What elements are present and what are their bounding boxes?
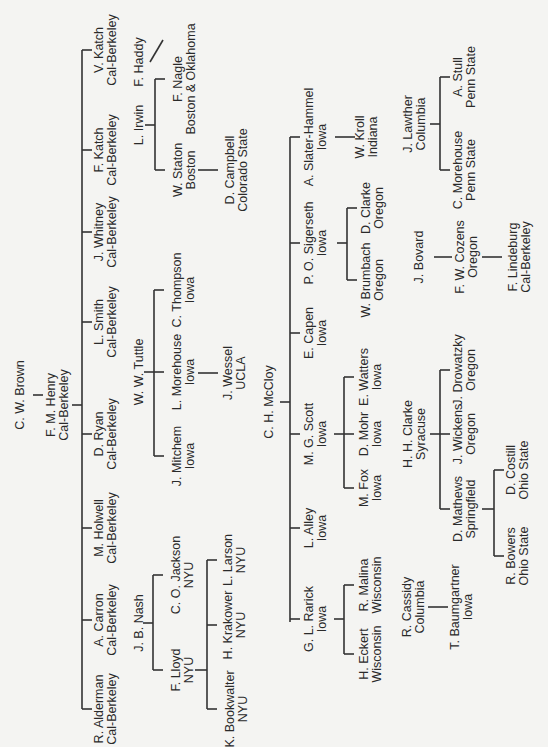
node-label: F. W. CozensOregon (454, 220, 480, 294)
school-name: Cal-Berkeley (106, 114, 119, 186)
person-name: J. B. Nash (133, 594, 146, 652)
node-label: D. ClarkeOregon (360, 182, 386, 234)
school-name: Cal-Berkeley (106, 673, 119, 745)
school-name: NYU (235, 534, 248, 586)
node-label: W. BrumbachOregon (360, 242, 386, 317)
school-name: Oregon (465, 334, 478, 406)
node-label: T. BaumgartnerIowa (449, 564, 475, 649)
school-name: Penn State (465, 46, 478, 108)
node-label: M. G. ScottIowa (303, 403, 329, 466)
school-name: Iowa (462, 564, 475, 649)
school-name: Oregon (373, 182, 386, 234)
node-label: J. MitchemIowa (171, 426, 197, 486)
school-name: Syracuse (415, 400, 428, 468)
node-label: C. MorehousePenn State (452, 131, 478, 210)
school-name: Iowa (316, 586, 329, 652)
school-name: Ohio State (518, 440, 531, 499)
person-name: W. W. Tuttle (133, 339, 146, 406)
school-name: UCLA (235, 346, 248, 400)
edge-haddy-nagle (150, 40, 163, 62)
node-label: F. KatchCal-Berkeley (93, 114, 119, 186)
node-label: L. Irwin (133, 105, 146, 145)
school-name: Iowa (316, 88, 329, 187)
school-name: Cal-Berkeley (58, 369, 71, 441)
school-name: Cal-Berkeley (106, 398, 119, 470)
school-name: Penn State (465, 131, 478, 210)
node-label: C. H. McCloy (263, 365, 276, 439)
node-label: J. LawtherColumbia (402, 95, 428, 153)
person-name: F. Haddy (133, 37, 146, 86)
node-label: F. LloydNYU (170, 648, 196, 691)
school-name: Cal-Berkeley (106, 14, 119, 86)
school-name: Iowa (316, 307, 329, 359)
person-name: L. Irwin (133, 105, 146, 145)
node-label: L. AlleyIowa (303, 508, 329, 548)
school-name: Ohio State (518, 526, 531, 585)
school-name: Iowa (371, 412, 384, 456)
person-name: J. Bovard (413, 231, 426, 284)
school-name: Iowa (184, 253, 197, 328)
school-name: Columbia (415, 95, 428, 153)
node-label: C. ThompsonIowa (171, 253, 197, 328)
school-name: Iowa (371, 348, 384, 406)
node-label: H. KrakowerNYU (222, 591, 248, 660)
school-name: Cal-Berkeley (106, 584, 119, 656)
school-name: NYU (183, 536, 196, 615)
node-label: F. LindeburgCal-Berkeley (507, 221, 533, 293)
school-name: Iowa (184, 426, 197, 486)
school-name: Iowa (184, 334, 197, 410)
node-label: F. Haddy (133, 37, 146, 86)
node-label: R. BowersOhio State (505, 526, 531, 585)
school-name: Boston & Oklahoma (185, 23, 198, 134)
node-label: D. MohrIowa (358, 412, 384, 456)
school-name: Wisconsin (371, 557, 384, 614)
node-label: G. L. RarickIowa (303, 586, 329, 652)
node-label: W. KrollIndiana (354, 115, 380, 158)
node-label: J. DrowatzkyOregon (452, 334, 478, 406)
node-label: H. H. ClarkeSyracuse (402, 400, 428, 468)
node-label: R. MalinaWisconsin (358, 557, 384, 614)
node-label: F. M. HenryCal-Berkeley (45, 369, 71, 441)
node-label: C. W. Brown (14, 360, 27, 429)
node-label: A. StullPenn State (452, 46, 478, 108)
school-name: Wisconsin (371, 626, 384, 683)
node-label: R. AldermanCal-Berkeley (93, 673, 119, 745)
node-label: D. CampbellColorado State (224, 128, 250, 211)
school-name: Springfield (465, 476, 478, 542)
node-label: L. LarsonNYU (222, 534, 248, 586)
node-label: L. SmithCal-Berkeley (93, 286, 119, 358)
school-name: Oregon (467, 220, 480, 294)
person-name: C. H. McCloy (263, 365, 276, 439)
node-label: D. RyanCal-Berkeley (93, 398, 119, 470)
node-label: J. WhitneyCal-Berkeley (93, 196, 119, 268)
school-name: Indiana (367, 115, 380, 158)
node-label: E. CapenIowa (303, 307, 329, 359)
school-name: Colorado State (237, 128, 250, 211)
school-name: Oregon (465, 404, 478, 464)
node-label: J. WesselUCLA (222, 346, 248, 400)
node-label: W. StatonBoston (172, 143, 198, 197)
school-name: Iowa (316, 201, 329, 284)
node-label: M. FoxIowa (358, 469, 384, 507)
node-label: J. Bovard (413, 231, 426, 284)
node-label: H. EckertWisconsin (358, 626, 384, 683)
node-label: W. W. Tuttle (133, 339, 146, 406)
school-name: NYU (235, 591, 248, 660)
node-label: D. CostillOhio State (505, 440, 531, 499)
node-label: A. Slater-HammelIowa (303, 88, 329, 187)
node-label: R. CassidyColumbia (401, 577, 427, 637)
school-name: Iowa (371, 469, 384, 507)
school-name: Cal-Berkeley (520, 221, 533, 293)
school-name: Cal-Berkeley (106, 286, 119, 358)
school-name: Columbia (414, 577, 427, 637)
school-name: Iowa (316, 403, 329, 466)
school-name: NYU (183, 648, 196, 691)
node-label: L. MorehouseIowa (171, 334, 197, 410)
node-label: J. WickensOregon (452, 404, 478, 464)
node-label: J. B. Nash (133, 594, 146, 652)
school-name: Oregon (373, 242, 386, 317)
person-name: C. W. Brown (14, 360, 27, 429)
school-name: Boston (185, 143, 198, 197)
node-label: F. NagleBoston & Oklahoma (172, 23, 198, 134)
school-name: NYU (237, 670, 250, 747)
